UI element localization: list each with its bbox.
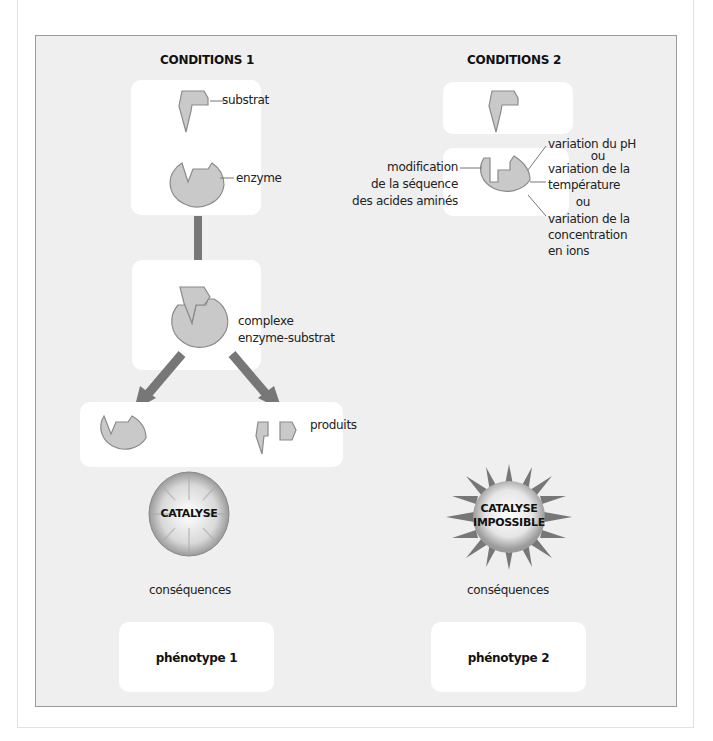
temperature-label-line2: température xyxy=(548,178,620,192)
enzyme-shape-icon xyxy=(166,157,228,209)
modification-label-line3: des acides aminés xyxy=(330,194,458,208)
conditions-1-title: CONDITIONS 1 xyxy=(160,53,254,67)
ions-label-line2: concentration xyxy=(548,228,627,242)
ou-label-2: ou xyxy=(548,195,618,209)
catalyse-impossible-text-line1: CATALYSE xyxy=(444,502,574,516)
free-enzyme-icon xyxy=(94,412,156,462)
ions-label-line3: en ions xyxy=(548,244,589,258)
modification-label-line1: modification xyxy=(340,160,458,174)
ou-label-1: ou xyxy=(548,149,648,163)
substrate-shape-icon xyxy=(176,88,216,133)
enzyme-substrate-complex-icon xyxy=(166,285,228,353)
complexe-label-line1: complexe xyxy=(238,314,293,328)
substrate-shape-2-icon xyxy=(486,88,526,133)
catalyse-impossible-text-line2: IMPOSSIBLE xyxy=(444,516,574,530)
phenotype-2-label: phénotype 2 xyxy=(431,651,586,665)
conditions-2-title: CONDITIONS 2 xyxy=(467,53,561,67)
enzyme-leader-line xyxy=(220,177,234,179)
modification-label-line2: de la séquence xyxy=(330,177,458,191)
substrat-label: substrat xyxy=(222,93,269,107)
consequences-1-label: conséquences xyxy=(140,583,240,597)
catalyse-badge-text: CATALYSE xyxy=(147,507,231,521)
temperature-label-line1: variation de la xyxy=(548,162,630,176)
consequences-2-label: conséquences xyxy=(458,583,558,597)
product-fragments-icon xyxy=(254,418,304,458)
produits-label: produits xyxy=(310,418,357,432)
enzyme-label: enzyme xyxy=(236,171,282,185)
complexe-label-line2: enzyme-substrat xyxy=(238,331,335,345)
leader-lines-conditions-2 xyxy=(460,140,550,260)
ions-label-line1: variation de la xyxy=(548,212,630,226)
phenotype-1-label: phénotype 1 xyxy=(119,651,274,665)
